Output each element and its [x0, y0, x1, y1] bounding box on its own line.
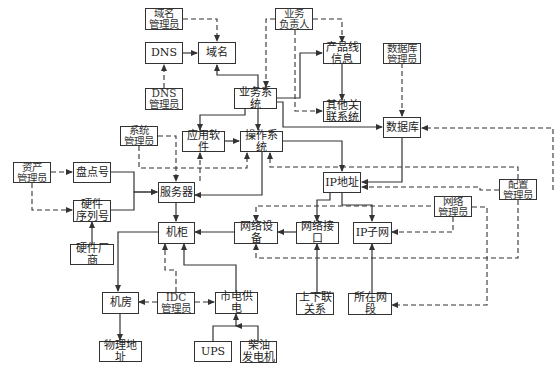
- node-sys-admin: 系统 管理员: [120, 126, 158, 146]
- node-network-segment: 所在网段: [348, 293, 392, 315]
- node-dns-admin: DNS 管理员: [145, 88, 183, 110]
- node-database: 数据库: [383, 117, 421, 138]
- node-db-admin: 数据库 管理员: [383, 43, 421, 64]
- node-asset-admin: 资产 管理员: [13, 162, 51, 183]
- node-physical-address: 物理地址: [99, 341, 142, 362]
- node-diesel-generator: 柴油 发电机: [240, 341, 277, 363]
- node-server: 服务器: [158, 182, 195, 203]
- node-city-power: 市电供电: [215, 292, 258, 314]
- node-product-line: 产品线 信息: [323, 43, 361, 64]
- node-network-port: 网络接口: [296, 222, 339, 244]
- node-ip-subnet: IP子网: [353, 222, 392, 244]
- node-idc-admin: IDC 管理员: [157, 292, 195, 314]
- node-biz-owner: 业务 负责人: [275, 8, 313, 30]
- node-uplink-relation: 上下联 关系: [296, 293, 334, 315]
- node-os: 操作系统: [240, 131, 283, 152]
- node-config-admin: 配置 管理员: [499, 179, 537, 200]
- node-dns: DNS: [145, 42, 183, 64]
- connector-layer: [0, 0, 560, 370]
- node-other-systems: 其他关 联系统: [323, 101, 361, 122]
- node-hw-vendor: 硬件厂商: [70, 244, 114, 265]
- node-net-admin: 网络 管理员: [434, 196, 472, 217]
- node-domain: 域名: [198, 42, 236, 64]
- node-rack: 机柜: [158, 222, 195, 244]
- node-ups: UPS: [194, 341, 232, 362]
- node-hw-serial: 硬件 序列号: [73, 200, 111, 222]
- node-app-software: 应用软件: [182, 131, 225, 152]
- node-inventory-no: 盘点号: [73, 162, 111, 183]
- node-network-device: 网络设备: [234, 222, 278, 244]
- node-machine-room: 机房: [102, 292, 139, 314]
- node-domain-admin: 域名 管理员: [145, 8, 183, 30]
- node-business-system: 业务系统: [234, 88, 277, 109]
- node-ip-address: IP地址: [323, 172, 361, 193]
